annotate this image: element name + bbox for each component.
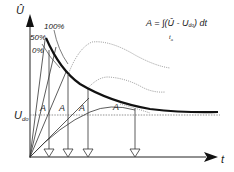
- area-label: A: [79, 104, 85, 113]
- label-100-percent: 100%: [44, 23, 64, 31]
- y-axis-arrow-icon: [26, 14, 34, 27]
- x-axis-label: t: [221, 154, 224, 165]
- characteristic-curve: [46, 38, 218, 112]
- ramp-lines: [30, 40, 135, 157]
- area-label: A: [113, 103, 119, 112]
- label-50-percent: 50%: [30, 34, 46, 42]
- marker-triangle-icon: [63, 149, 73, 157]
- label-0-percent: 0%: [32, 47, 44, 55]
- marker-triangle-icon: [83, 149, 93, 157]
- marker-triangle-icon: [130, 149, 140, 157]
- marker-triangle-icon: [44, 149, 54, 157]
- area-label: A: [40, 104, 46, 113]
- area-label: A: [59, 104, 65, 113]
- area-formula: A = ∫(Û - Udo) dt: [146, 19, 207, 28]
- formula-lower-limit: ta: [169, 34, 173, 42]
- threshold-label: Udo: [14, 110, 29, 122]
- y-axis-label: Û: [16, 5, 24, 16]
- x-axis-arrow-icon: [204, 152, 218, 162]
